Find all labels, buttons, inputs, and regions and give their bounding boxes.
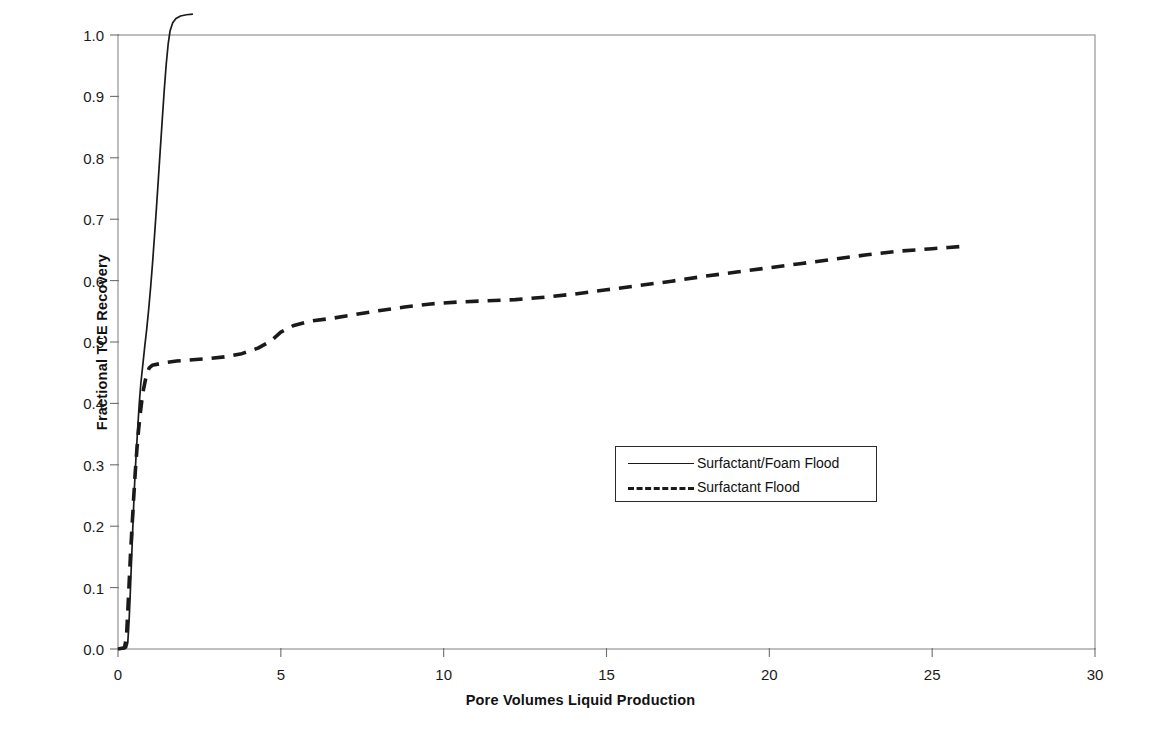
y-tick-label: 1.0 [52, 27, 104, 44]
x-tick-label: 20 [761, 666, 778, 683]
plot-frame [118, 35, 1095, 649]
y-tick-label: 0.1 [52, 579, 104, 596]
legend-label-1: Surfactant Flood [697, 479, 800, 495]
y-tick-label: 0.7 [52, 211, 104, 228]
y-tick-label: 0.3 [52, 456, 104, 473]
legend-item-surfactant-foam-flood: Surfactant/Foam Flood [616, 450, 876, 476]
legend-item-surfactant-flood: Surfactant Flood [616, 474, 876, 500]
x-tick-label: 25 [924, 666, 941, 683]
legend-swatch-solid-line-icon [628, 456, 694, 470]
x-tick-label: 0 [114, 666, 122, 683]
x-tick-label: 30 [1087, 666, 1104, 683]
y-tick-label: 0.6 [52, 272, 104, 289]
y-tick-label: 0.9 [52, 88, 104, 105]
y-tick-label: 0.0 [52, 641, 104, 658]
chart-figure: Fractional TCE Recovery Pore Volumes Liq… [0, 0, 1161, 744]
legend-label-0: Surfactant/Foam Flood [697, 455, 839, 471]
chart-legend: Surfactant/Foam Flood Surfactant Flood [615, 446, 877, 502]
y-tick-label: 0.5 [52, 334, 104, 351]
plot-canvas [0, 0, 1161, 744]
y-tick-label: 0.4 [52, 395, 104, 412]
x-tick-label: 15 [598, 666, 615, 683]
x-axis-title: Pore Volumes Liquid Production [0, 692, 1161, 708]
y-tick-label: 0.2 [52, 518, 104, 535]
x-tick-label: 5 [277, 666, 285, 683]
y-tick-label: 0.8 [52, 149, 104, 166]
x-tick-label: 10 [435, 666, 452, 683]
legend-swatch-dashed-line-icon [628, 480, 694, 494]
